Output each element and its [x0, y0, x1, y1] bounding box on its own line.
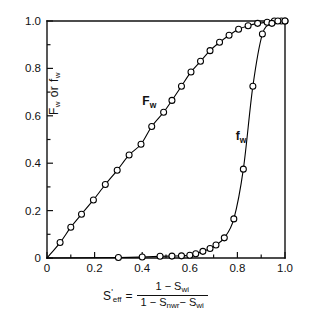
marker-Fw: [102, 182, 108, 188]
y-tick-label: 0: [35, 252, 41, 264]
marker-fw: [250, 83, 256, 89]
marker-Fw: [169, 97, 175, 103]
marker-fw: [207, 246, 213, 252]
y-axis-label-or: or: [47, 86, 61, 97]
marker-Fw: [126, 152, 132, 158]
x-label-symbol-sub: eff: [113, 295, 122, 304]
y-axis-label-F: F: [47, 107, 61, 115]
marker-Fw: [245, 23, 251, 29]
marker-fw: [178, 253, 184, 259]
marker-fw: [231, 216, 237, 222]
marker-fw: [115, 255, 121, 261]
y-axis-label-f: f: [47, 78, 61, 82]
marker-Fw: [207, 48, 213, 54]
y-tick-label: 0.8: [25, 62, 41, 74]
marker-fw: [200, 248, 206, 254]
x-label-fraction: 1 − Swi 1 − Snwr− Swi: [137, 281, 208, 311]
marker-fw: [193, 251, 199, 257]
marker-Fw: [217, 39, 223, 45]
marker-Fw: [236, 26, 242, 32]
marker-Fw: [149, 123, 155, 129]
marker-fw: [282, 18, 288, 24]
marker-Fw: [226, 32, 232, 38]
marker-fw: [259, 31, 265, 37]
x-tick-label: 0: [44, 262, 50, 274]
marker-Fw: [178, 83, 184, 89]
y-axis-label: Fw or fw: [47, 34, 62, 154]
y-tick-label: 0.2: [25, 205, 41, 217]
x-tick-label: 0.2: [87, 262, 103, 274]
marker-Fw: [255, 20, 261, 26]
marker-Fw: [138, 141, 144, 147]
marker-fw: [157, 253, 163, 259]
fraction-denominator: 1 − Snwr− Swi: [137, 295, 208, 310]
y-axis-label-F-sub: w: [53, 101, 62, 107]
x-label-equals: =: [126, 289, 133, 303]
y-tick-label: 0.4: [25, 157, 42, 169]
marker-Fw: [79, 211, 85, 217]
x-tick-label: 1.0: [277, 262, 293, 274]
x-tick-label: 0.8: [229, 262, 245, 274]
y-tick-label: 1.0: [25, 15, 41, 27]
marker-Fw: [188, 69, 194, 75]
marker-Fw: [161, 109, 167, 115]
marker-Fw: [68, 224, 74, 230]
marker-Fw: [114, 167, 120, 173]
x-axis-label: S'eff = 1 − Swi 1 − Snwr− Swi: [0, 281, 311, 311]
marker-Fw: [90, 197, 96, 203]
marker-fw: [169, 253, 175, 259]
x-tick-label: 0.4: [134, 262, 151, 274]
y-tick-label: 0.6: [25, 110, 41, 122]
marker-Fw: [198, 58, 204, 64]
marker-Fw: [57, 240, 63, 246]
x-tick-label: 0.6: [182, 262, 198, 274]
marker-fw: [213, 242, 219, 248]
marker-fw: [187, 252, 193, 258]
x-label-symbol: S'eff: [103, 287, 121, 304]
y-axis-label-f-sub: w: [53, 72, 62, 78]
fraction-numerator: 1 − Swi: [151, 281, 193, 295]
marker-fw: [275, 18, 281, 24]
marker-fw: [221, 235, 227, 241]
marker-fw: [240, 166, 246, 172]
marker-fw: [139, 254, 145, 260]
marker-fw: [269, 20, 275, 26]
